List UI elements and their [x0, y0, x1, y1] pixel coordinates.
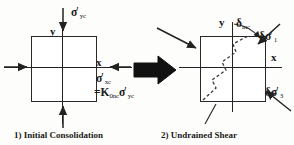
equals-k: =K	[94, 86, 110, 98]
prime-glyph: ′	[270, 29, 273, 41]
label-k0nc-relation: =K0ncσ′yc	[94, 83, 134, 100]
figure-canvas: y x σ′yc σ′xc =K0ncσ′yc 1) Initial Conso…	[0, 0, 294, 145]
sigma-3-subscript: 3	[280, 92, 283, 100]
axis-label-y-left: y	[50, 26, 56, 37]
panel-undrained-shear: y x δinc δσ′1 δσ′3 2) Undrained Shear	[147, 0, 294, 145]
sigma-subscript: yc	[128, 92, 134, 100]
caption-undrained-shear: 2) Undrained Shear	[161, 130, 237, 140]
inc-subscript: inc	[242, 23, 250, 31]
label-delta-sigma-3: δσ′3	[265, 83, 283, 100]
y-axis-right	[232, 22, 233, 112]
prime-glyph: ′	[124, 85, 127, 97]
prime-glyph: ′	[101, 71, 104, 83]
axis-label-x-left: x	[96, 57, 102, 68]
caption-initial-consolidation: 1) Initial Consolidation	[14, 130, 103, 140]
x-axis-right	[179, 67, 282, 68]
panel-initial-consolidation: y x σ′yc σ′xc =K0ncσ′yc 1) Initial Conso…	[0, 0, 147, 145]
k-subscript: 0nc	[110, 92, 120, 100]
prime-glyph: ′	[76, 5, 79, 17]
axis-label-x-right: x	[271, 52, 277, 63]
y-axis-left	[62, 22, 63, 124]
label-delta-inc: δinc	[236, 14, 250, 31]
sigma-1-subscript: 1	[274, 36, 277, 44]
label-sigma-yc: σ′yc	[71, 3, 86, 20]
soil-element-left	[31, 36, 97, 102]
sigma-yc-subscript: yc	[80, 12, 86, 20]
axis-label-y-right: y	[219, 17, 225, 28]
label-delta-sigma-1: δσ′1	[259, 27, 277, 44]
x-axis-left	[4, 67, 132, 68]
prime-glyph: ′	[276, 85, 279, 97]
